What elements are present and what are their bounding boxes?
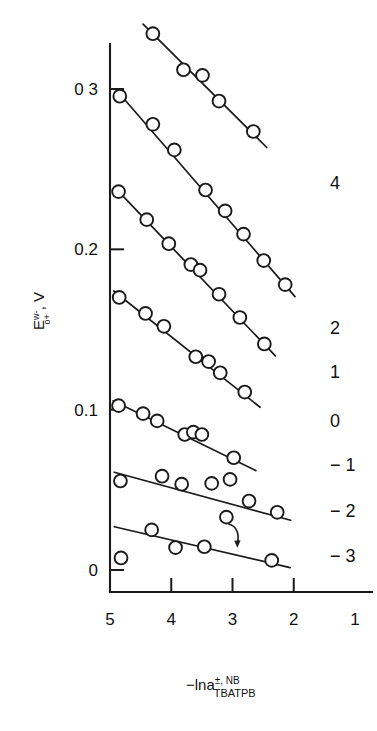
data-point [140,213,153,226]
series-4 [143,24,267,147]
data-point [224,473,237,486]
y-axis-title-subscript: o+ [42,314,52,324]
series--2 [114,470,291,520]
series-label-4: 4 [330,173,340,193]
data-point [199,184,212,197]
series-label--2: − 2 [330,501,356,521]
y-tick-label-3: 0 [89,561,98,580]
data-point [237,228,250,241]
data-series-group [112,24,295,568]
x-axis-title-subscript: TBATPB [214,687,256,699]
data-point [168,144,181,157]
series-label--3: − 3 [330,546,356,566]
x-tick-label-1: 4 [167,610,176,629]
series-label--1: − 1 [330,455,356,475]
x-axis-title-main: −lna [186,676,215,693]
data-point [137,407,150,420]
data-point [265,554,278,567]
annotations [220,511,241,548]
data-point [247,125,260,138]
data-point [169,541,182,554]
data-point [175,478,188,491]
data-point [158,320,171,333]
series--2-trendline [114,472,290,520]
series-label-1: 1 [330,362,340,382]
y-axis-ticks [110,89,124,570]
outlier-data-point [220,511,233,524]
data-point [198,540,211,553]
data-point [189,350,202,363]
series-label-2: 2 [330,318,340,338]
data-point [115,552,128,565]
data-point [113,291,126,304]
data-point [227,451,240,464]
data-point [112,185,125,198]
data-point [219,204,232,217]
data-point [213,288,226,301]
data-point [162,237,175,250]
x-tick-label-2: 3 [228,610,237,629]
data-point [233,311,246,324]
y-tick-label-0: 0 3 [74,80,98,99]
y-axis-title: Ew-o+, V [30,292,52,330]
data-point [139,307,152,320]
svg-text:−lna±, NBTBATPB: −lna±, NBTBATPB [186,675,256,699]
y-axis-title-suffix: , V [30,292,47,310]
x-axis-title-superscript: ±, NB [215,675,240,686]
data-point [257,254,270,267]
data-point [279,278,292,291]
x-tick-label-0: 5 [105,610,114,629]
y-tick-label-1: 0.2 [74,240,98,259]
data-point [213,95,226,108]
data-point [113,90,126,103]
y-tick-label-2: 0.1 [74,401,98,420]
series-end-labels: 4210− 1− 2− 3 [330,173,356,566]
x-axis-ticks [171,578,294,592]
data-point [243,495,256,508]
data-point [196,69,209,82]
data-point [146,118,159,131]
svg-text:Ew-o+, V: Ew-o+, V [30,292,52,330]
data-point [238,386,251,399]
chart-svg: 0 30.20.10 54321 4210− 1− 2− 3 Ew-o+, V … [0,0,377,731]
data-point [205,477,218,490]
data-point [194,264,207,277]
data-point [258,338,271,351]
y-axis-title-superscript: w- [31,310,41,321]
data-point [146,27,159,40]
series--3 [114,524,290,568]
data-point [195,428,208,441]
chart-figure: 0 30.20.10 54321 4210− 1− 2− 3 Ew-o+, V … [0,0,377,731]
series-1 [112,185,275,356]
data-point [214,366,227,379]
data-point [271,506,284,519]
series--1 [112,399,256,470]
series-label-0: 0 [330,411,340,431]
y-axis-tick-labels: 0 30.20.10 [74,80,98,580]
data-point [114,475,127,488]
x-tick-label-4: 1 [350,610,359,629]
x-axis-tick-labels: 54321 [105,610,359,629]
annotation-arrow-head [234,540,240,548]
series-0 [113,291,260,407]
data-point [202,355,215,368]
x-tick-label-3: 2 [289,610,298,629]
data-point [177,63,190,76]
data-point [151,414,164,427]
x-axis-title: −lna±, NBTBATPB [186,675,256,699]
data-point [145,524,158,537]
data-point [156,470,169,483]
data-point [112,399,125,412]
